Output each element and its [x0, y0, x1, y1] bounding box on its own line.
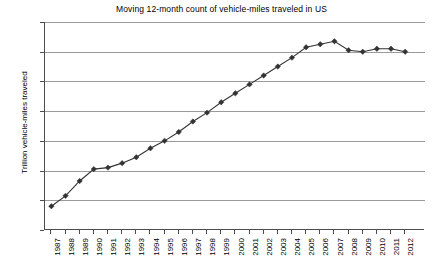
- x-axis-tick-label: 2003: [280, 238, 288, 256]
- x-axis-tick-label: 1988: [68, 238, 76, 256]
- data-point: [402, 49, 407, 54]
- data-point: [162, 138, 167, 143]
- x-axis-tick-label: 1995: [167, 238, 175, 256]
- x-axis-tick-mark: [277, 230, 278, 234]
- data-point: [346, 48, 351, 53]
- data-point: [134, 155, 139, 160]
- y-axis-tick-mark: [40, 171, 44, 172]
- x-axis-tick-mark: [149, 230, 150, 234]
- chart-title: Moving 12-month count of vehicle-miles t…: [0, 4, 443, 15]
- y-axis-tick-mark: [40, 81, 44, 82]
- y-axis-tick-mark: [40, 22, 44, 23]
- x-axis-tick-mark: [79, 230, 80, 234]
- data-point: [105, 165, 110, 170]
- x-axis-tick-mark: [107, 230, 108, 234]
- series-markers: [49, 39, 408, 209]
- data-point: [360, 49, 365, 54]
- x-axis-tick-label: 1990: [96, 238, 104, 256]
- x-axis-tick-mark: [220, 230, 221, 234]
- x-axis-tick-label: 2010: [379, 238, 387, 256]
- y-axis-tick-mark: [40, 111, 44, 112]
- x-axis-tick-mark: [121, 230, 122, 234]
- x-axis-tick-mark: [319, 230, 320, 234]
- x-axis-tick-label: 1993: [138, 238, 146, 256]
- x-axis-tick-mark: [135, 230, 136, 234]
- x-axis-tick-mark: [390, 230, 391, 234]
- x-axis-tick-label: 1987: [54, 238, 62, 256]
- x-axis-tick-label: 2001: [252, 238, 260, 256]
- x-axis-tick-mark: [362, 230, 363, 234]
- data-point: [332, 39, 337, 44]
- x-axis-tick-label: 1994: [153, 238, 161, 256]
- x-axis-tick-mark: [376, 230, 377, 234]
- x-axis-tick-label: 2004: [294, 238, 302, 256]
- x-axis-tick-mark: [305, 230, 306, 234]
- x-axis-tick-mark: [291, 230, 292, 234]
- x-axis-tick-label: 2012: [407, 238, 415, 256]
- x-axis-tick-mark: [333, 230, 334, 234]
- x-axis-tick-label: 2006: [322, 238, 330, 256]
- x-axis-tick-label: 1992: [124, 238, 132, 256]
- y-axis-tick-mark: [40, 141, 44, 142]
- data-point: [148, 146, 153, 151]
- data-point: [318, 42, 323, 47]
- data-point: [374, 46, 379, 51]
- x-axis-tick-label: 2011: [393, 238, 401, 255]
- x-axis-tick-mark: [249, 230, 250, 234]
- x-axis-tick-label: 1991: [110, 238, 118, 256]
- x-axis-tick-label: 1998: [209, 238, 217, 256]
- x-axis-tick-label: 2008: [351, 238, 359, 256]
- data-point: [388, 46, 393, 51]
- x-axis-tick-label: 2009: [365, 238, 373, 256]
- chart-figure: Moving 12-month count of vehicle-miles t…: [0, 0, 443, 274]
- x-axis-tick-label: 1999: [223, 238, 231, 256]
- x-axis-tick-mark: [50, 230, 51, 234]
- x-axis-tick-label: 1997: [195, 238, 203, 256]
- y-axis-tick-mark: [40, 200, 44, 201]
- data-point: [119, 160, 124, 165]
- x-axis-tick-mark: [263, 230, 264, 234]
- y-axis-tick-mark: [40, 52, 44, 53]
- x-axis-tick-mark: [404, 230, 405, 234]
- data-point: [233, 91, 238, 96]
- x-axis-tick-mark: [65, 230, 66, 234]
- x-axis-tick-mark: [234, 230, 235, 234]
- x-axis-tick-label: 1996: [181, 238, 189, 256]
- x-axis-tick-mark: [192, 230, 193, 234]
- data-point: [261, 73, 266, 78]
- x-axis-tick-label: 2005: [308, 238, 316, 256]
- x-axis-tick-label: 1989: [82, 238, 90, 256]
- x-axis-tick-mark: [93, 230, 94, 234]
- x-axis-tick-mark: [178, 230, 179, 234]
- y-axis-title: Trillion vehicle-miles traveled: [20, 33, 29, 213]
- data-point: [275, 64, 280, 69]
- series-vehicle-miles: [45, 22, 425, 230]
- x-axis-tick-mark: [206, 230, 207, 234]
- x-axis-tick-label: 2007: [337, 238, 345, 256]
- x-axis-tick-label: 2002: [266, 238, 274, 256]
- x-axis-tick-mark: [164, 230, 165, 234]
- series-line: [51, 41, 405, 206]
- data-point: [247, 82, 252, 87]
- x-axis-ticks: 1987198819891990199119921993199419951996…: [44, 230, 424, 274]
- plot-area: [44, 22, 424, 230]
- x-axis-tick-label: 2000: [238, 238, 246, 256]
- x-axis-tick-mark: [348, 230, 349, 234]
